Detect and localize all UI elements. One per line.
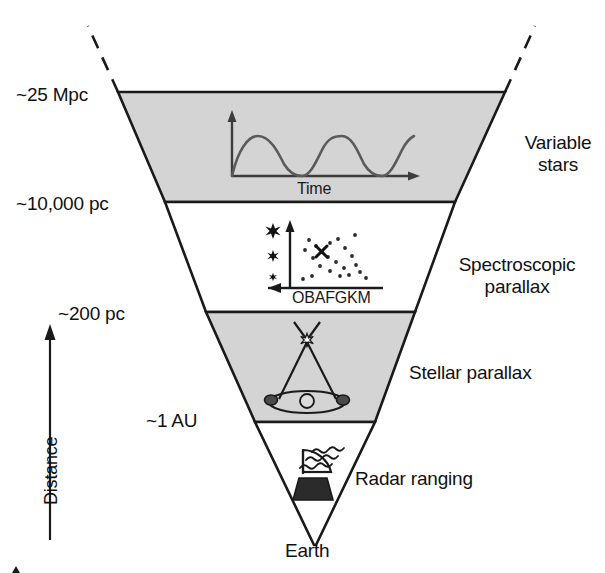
method-label-spectroscopic-parallax-line2: parallax — [442, 276, 592, 298]
earth-position-a — [265, 395, 278, 405]
method-label-variable-stars: Variable stars — [516, 132, 600, 177]
distance-axis-label: Distance — [41, 437, 62, 505]
method-label-spectroscopic-parallax: Spectroscopic parallax — [442, 254, 592, 299]
page-corner-mark — [12, 566, 20, 573]
distance-ladder-figure: ~25 Mpc ~10,000 pc ~200 pc ~1 AU Variabl… — [0, 0, 605, 573]
distance-axis-arrowhead — [45, 324, 56, 340]
method-label-spectroscopic-parallax-line1: Spectroscopic — [442, 254, 592, 276]
method-label-stellar-parallax: Stellar parallax — [409, 362, 569, 384]
radar-dish-base — [293, 478, 333, 500]
dashed-right-edge — [505, 26, 535, 92]
apex-label-earth: Earth — [285, 540, 329, 562]
cone-dashed-extensions — [88, 26, 535, 92]
sun-glyph — [300, 394, 314, 408]
dashed-left-edge — [88, 26, 118, 92]
method-label-variable-stars-line1: Variable — [516, 132, 600, 154]
distance-label-1-au: ~1 AU — [146, 410, 197, 432]
earth-position-b — [337, 395, 350, 405]
light-curve-time-label: Time — [297, 180, 331, 198]
distance-label-200-pc: ~200 pc — [58, 303, 125, 325]
distance-label-25-mpc: ~25 Mpc — [16, 84, 88, 106]
method-label-radar-ranging: Radar ranging — [355, 468, 525, 490]
hr-spectral-class-label: OBAFGKM — [292, 289, 371, 307]
distance-label-10000-pc: ~10,000 pc — [16, 193, 109, 215]
distance-axis — [45, 324, 56, 540]
method-label-variable-stars-line2: stars — [516, 154, 600, 176]
